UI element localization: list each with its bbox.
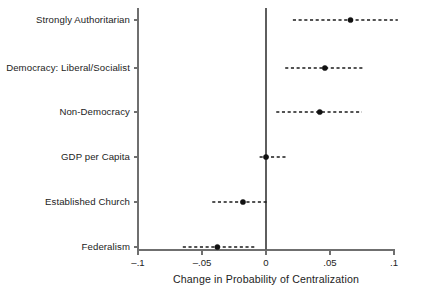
x-axis: –.1–.050.05.1 xyxy=(131,250,398,268)
y-tick-label: Federalism xyxy=(82,241,130,252)
plot-canvas: Strongly AuthoritarianDemocracy: Liberal… xyxy=(0,0,425,296)
estimate-series xyxy=(183,17,398,249)
x-axis-title-label: Change in Probability of Centralization xyxy=(173,273,359,285)
estimate-row xyxy=(285,65,364,70)
point-estimate-marker xyxy=(348,17,353,22)
y-tick-label: Non-Democracy xyxy=(59,106,130,117)
y-tick-label: Democracy: Liberal/Socialist xyxy=(6,62,130,73)
x-tick-label: –.05 xyxy=(193,257,212,268)
y-axis: Strongly AuthoritarianDemocracy: Liberal… xyxy=(6,8,138,252)
point-estimate-marker xyxy=(263,154,268,159)
x-tick-label: .1 xyxy=(390,257,398,268)
x-tick-label: 0 xyxy=(263,257,268,268)
y-tick-label: Strongly Authoritarian xyxy=(36,14,130,25)
estimate-row xyxy=(293,17,398,22)
point-estimate-marker xyxy=(317,109,322,114)
estimate-row xyxy=(212,199,268,204)
x-tick-label: .05 xyxy=(323,257,336,268)
y-tick-label: GDP per Capita xyxy=(61,151,131,162)
estimate-row xyxy=(276,109,362,114)
x-axis-title: Change in Probability of Centralization xyxy=(173,273,359,285)
point-estimate-marker xyxy=(215,244,220,249)
y-tick-label: Established Church xyxy=(45,196,130,207)
x-tick-label: –.1 xyxy=(131,257,144,268)
estimate-row xyxy=(183,244,255,249)
coefficient-plot-figure: Strongly AuthoritarianDemocracy: Liberal… xyxy=(0,0,425,296)
point-estimate-marker xyxy=(240,199,245,204)
point-estimate-marker xyxy=(322,65,327,70)
estimate-row xyxy=(260,154,288,159)
